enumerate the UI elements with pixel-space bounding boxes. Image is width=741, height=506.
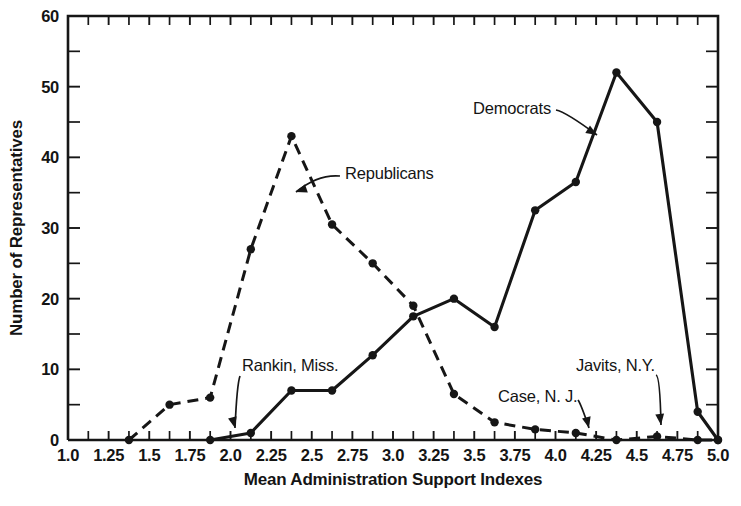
x-tick-label: 4.5 — [626, 446, 648, 464]
data-point-democrats — [693, 408, 701, 416]
data-point-republicans — [247, 245, 255, 253]
data-point-democrats — [247, 429, 255, 437]
data-point-democrats — [653, 118, 661, 126]
data-point-republicans — [450, 390, 458, 398]
data-point-democrats — [531, 206, 539, 214]
y-axis-title: Number of Representatives — [7, 120, 26, 336]
data-point-republicans — [531, 425, 539, 433]
chart-container: 1.01.251.51.752.02.252.52.753.03.253.53.… — [0, 0, 741, 506]
annotation-label: Democrats — [473, 99, 551, 117]
data-point-democrats — [368, 351, 376, 359]
distribution-line-chart: 1.01.251.51.752.02.252.52.753.03.253.53.… — [0, 0, 741, 506]
x-tick-label: 3.5 — [463, 446, 485, 464]
annotation-label: Rankin, Miss. — [242, 356, 338, 374]
x-tick-label: 1.75 — [174, 446, 205, 464]
series-line-democrats — [210, 73, 718, 440]
data-point-democrats — [490, 323, 498, 331]
x-tick-label: 1.5 — [138, 446, 160, 464]
data-point-republicans — [409, 302, 417, 310]
x-tick-label: 4.25 — [581, 446, 612, 464]
annotation-arrowhead — [655, 414, 664, 425]
data-point-republicans — [572, 429, 580, 437]
data-point-democrats — [572, 178, 580, 186]
y-tick-label: 50 — [41, 78, 59, 96]
y-tick-label: 20 — [41, 290, 59, 308]
annotation-label: Javits, N.Y. — [576, 356, 655, 374]
caption-strip — [0, 490, 741, 506]
y-tick-label: 40 — [41, 148, 59, 166]
data-point-republicans — [287, 132, 295, 140]
annotation-arrowhead — [582, 416, 591, 428]
data-point-republicans — [612, 436, 620, 444]
x-tick-label: 2.25 — [256, 446, 287, 464]
x-tick-label: 5.0 — [707, 446, 729, 464]
data-point-democrats — [206, 436, 214, 444]
data-point-republicans — [653, 432, 661, 440]
data-point-republicans — [125, 436, 133, 444]
x-tick-label: 2.0 — [219, 446, 241, 464]
data-point-republicans — [490, 418, 498, 426]
x-tick-label: 1.0 — [57, 446, 79, 464]
data-point-republicans — [368, 259, 376, 267]
x-axis-title: Mean Administration Support Indexes — [244, 470, 542, 489]
y-tick-label: 30 — [41, 219, 59, 237]
annotation-label: Case, N. J. — [498, 387, 577, 405]
x-tick-label: 3.25 — [418, 446, 449, 464]
data-point-democrats — [612, 68, 620, 76]
annotation-label: Republicans — [345, 164, 434, 182]
data-point-democrats — [409, 312, 417, 320]
data-point-democrats — [450, 294, 458, 302]
data-point-republicans — [693, 436, 701, 444]
data-point-democrats — [714, 436, 722, 444]
data-point-republicans — [328, 220, 336, 228]
data-point-republicans — [165, 400, 173, 408]
data-point-republicans — [206, 393, 214, 401]
data-point-democrats — [328, 386, 336, 394]
x-tick-label: 2.75 — [337, 446, 368, 464]
y-tick-label: 0 — [50, 431, 59, 449]
x-tick-label: 3.0 — [382, 446, 404, 464]
x-tick-label: 4.0 — [544, 446, 566, 464]
x-tick-label: 1.25 — [93, 446, 124, 464]
y-tick-label: 60 — [41, 7, 59, 25]
x-tick-label: 3.75 — [499, 446, 530, 464]
x-tick-label: 4.75 — [662, 446, 693, 464]
y-tick-label: 10 — [41, 360, 59, 378]
x-tick-label: 2.5 — [301, 446, 323, 464]
data-point-democrats — [287, 386, 295, 394]
